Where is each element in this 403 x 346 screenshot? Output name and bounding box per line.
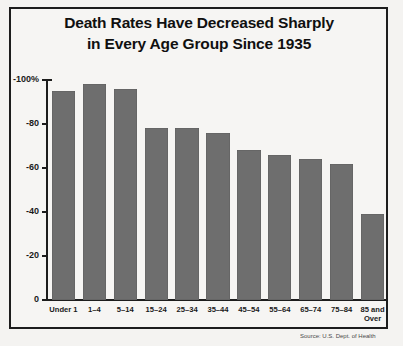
bar <box>52 91 75 300</box>
y-axis-tick-label: -60 <box>26 162 39 172</box>
chart-title-line-1: Death Rates Have Decreased Sharply <box>18 13 380 34</box>
bar <box>145 128 168 300</box>
chart-title: Death Rates Have Decreased Sharply in Ev… <box>18 13 380 55</box>
bar <box>299 159 322 300</box>
chart-title-line-2: in Every Age Group Since 1935 <box>18 34 380 55</box>
bar <box>237 150 260 300</box>
bar <box>114 89 137 300</box>
y-axis-tick-label: -80 <box>26 118 39 128</box>
bar <box>83 84 106 300</box>
bar <box>268 155 291 300</box>
plot-area <box>48 80 388 300</box>
chart-figure: Death Rates Have Decreased Sharply in Ev… <box>0 0 403 346</box>
bar <box>361 214 384 300</box>
bar <box>330 164 353 300</box>
y-axis-tick-label: -40 <box>26 206 39 216</box>
bar <box>175 128 198 300</box>
x-axis-category-label: 85 andOver <box>353 305 392 324</box>
source-note: Source: U.S. Dept. of Health <box>300 333 400 339</box>
y-axis-tick-label: 0 <box>34 294 39 304</box>
y-axis-tick-label: -20 <box>26 250 39 260</box>
bar <box>206 133 229 300</box>
y-axis-tick-label: -100% <box>13 74 39 84</box>
